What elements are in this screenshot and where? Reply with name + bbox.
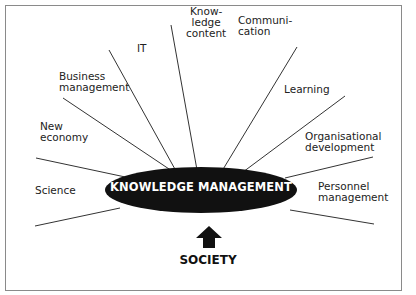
- up-arrow-icon: [196, 226, 222, 248]
- label-new-economy: New economy: [40, 121, 88, 143]
- label-knowledge-content: Know- ledge content: [186, 6, 226, 39]
- label-learning: Learning: [284, 84, 330, 95]
- label-personnel-management: Personnel management: [318, 181, 388, 203]
- center-label: KNOWLEDGE MANAGEMENT: [105, 180, 297, 194]
- label-communication: Communi- cation: [238, 15, 292, 37]
- society-label: SOCIETY: [150, 253, 266, 267]
- label-it: IT: [137, 43, 147, 54]
- label-organisational-development: Organisational development: [305, 131, 381, 153]
- label-business-management: Business management: [59, 71, 129, 93]
- label-science: Science: [35, 185, 76, 196]
